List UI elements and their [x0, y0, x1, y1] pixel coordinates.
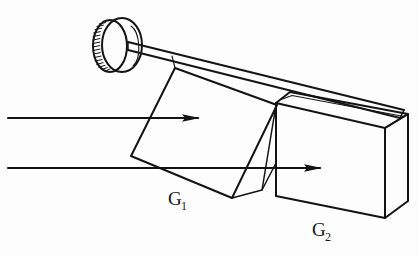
- rod-bottom-edge: [128, 50, 400, 118]
- label-group: G 1 G 2: [168, 188, 331, 244]
- slab-top-face: [276, 92, 408, 128]
- figure-root: G 1 G 2: [0, 0, 418, 256]
- label-g1: G 1: [168, 188, 187, 213]
- label-g1-subscript: 1: [181, 199, 187, 213]
- slab-right-end-face: [385, 114, 408, 218]
- ray-group: [8, 114, 322, 171]
- slab-front-face: [276, 103, 385, 218]
- slab-block-g2: [276, 92, 408, 218]
- upper-ray: [8, 114, 200, 121]
- rod-top-edge: [128, 42, 404, 110]
- label-g2-base: G: [312, 219, 326, 240]
- label-g2-subscript: 2: [325, 230, 331, 244]
- label-g2: G 2: [312, 219, 331, 244]
- wedge-front-face: [131, 68, 277, 198]
- label-g1-base: G: [168, 188, 182, 209]
- knurled-thumbwheel[interactable]: [93, 18, 142, 72]
- optical-diagram-canvas: G 1 G 2: [0, 0, 418, 256]
- wedge-prism-g1: [131, 56, 277, 198]
